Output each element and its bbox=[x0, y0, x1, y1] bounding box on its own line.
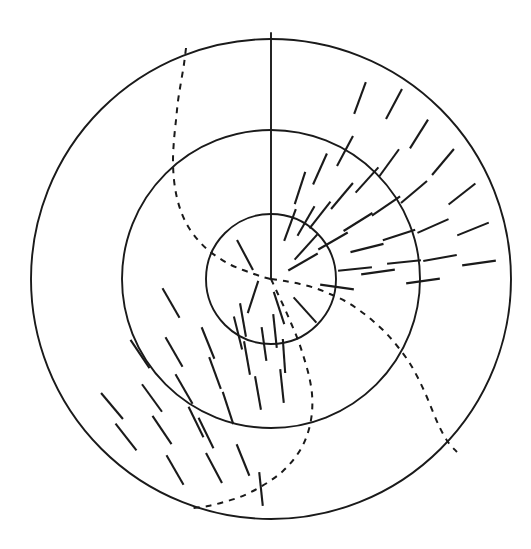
figure-background bbox=[0, 0, 531, 549]
figure-root bbox=[0, 0, 531, 549]
diagram-canvas bbox=[0, 0, 531, 549]
